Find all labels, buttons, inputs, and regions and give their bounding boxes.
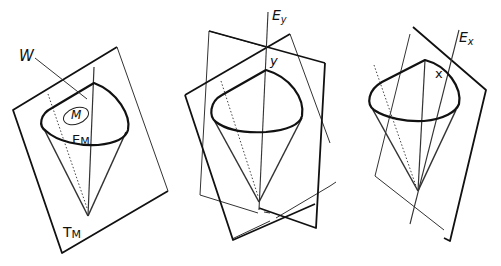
middle-back-plane-bottom-c bbox=[232, 221, 270, 239]
label-w: W bbox=[19, 49, 34, 64]
middle-figure bbox=[185, 12, 336, 240]
label-tm: TM bbox=[63, 225, 81, 239]
middle-cone-rim bbox=[211, 70, 302, 132]
label-ex-main: E bbox=[459, 29, 468, 45]
label-em-main: E bbox=[72, 132, 80, 147]
label-ey-sub: y bbox=[281, 14, 287, 25]
middle-back-plane-bottom-b bbox=[276, 186, 330, 218]
label-ey: Ey bbox=[272, 8, 287, 22]
label-tm-main: T bbox=[63, 224, 72, 240]
axis-ey bbox=[259, 12, 268, 210]
right-thick-plane bbox=[413, 27, 486, 241]
label-em: EM bbox=[72, 133, 90, 146]
right-figure bbox=[369, 27, 486, 241]
label-m: M bbox=[71, 109, 81, 121]
label-x: x bbox=[435, 67, 443, 80]
plane-tm-thin-edge bbox=[117, 47, 168, 191]
label-ex: Ex bbox=[459, 30, 474, 44]
right-cone-axis bbox=[418, 60, 425, 191]
right-cone-side-left bbox=[373, 110, 418, 191]
label-tm-sub: M bbox=[72, 228, 82, 241]
axis-ex bbox=[410, 30, 459, 224]
middle-dotted-line bbox=[221, 81, 258, 196]
right-cone-side-right bbox=[418, 110, 456, 191]
right-cone-rim bbox=[369, 60, 459, 121]
label-ex-sub: x bbox=[468, 36, 474, 47]
label-em-sub: M bbox=[80, 135, 90, 148]
left-figure bbox=[13, 47, 168, 253]
middle-back-plane-corner bbox=[330, 182, 336, 186]
label-ey-main: E bbox=[272, 7, 281, 23]
label-y: y bbox=[270, 54, 278, 67]
